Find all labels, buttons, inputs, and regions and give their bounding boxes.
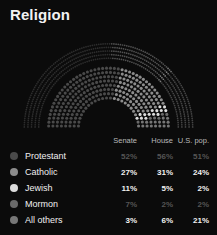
chart-dot <box>49 89 51 91</box>
chart-dot <box>54 77 56 79</box>
chart-dot <box>139 113 142 116</box>
table-row[interactable]: Catholic27%31%24% <box>10 164 209 180</box>
chart-dot <box>172 72 174 74</box>
chart-dot <box>155 109 158 112</box>
chart-dot <box>165 82 167 84</box>
table-row[interactable]: Protestant52%56%51% <box>10 148 209 164</box>
chart-dot <box>47 93 49 95</box>
chart-dot <box>171 91 173 93</box>
chart-dot <box>66 83 69 86</box>
chart-dot <box>160 81 162 83</box>
table-row[interactable]: Jewish11%5%2% <box>10 180 209 196</box>
table-row[interactable]: Mormon7%2%2% <box>10 196 209 212</box>
chart-dot <box>170 71 172 73</box>
chart-dot <box>166 89 168 91</box>
chart-dot <box>122 44 124 46</box>
legend-dot-icon <box>10 200 18 208</box>
chart-dot <box>177 103 179 105</box>
chart-dot <box>86 70 89 73</box>
chart-dot <box>31 124 33 126</box>
chart-dot <box>185 126 187 128</box>
chart-dot <box>178 81 180 83</box>
chart-dot <box>99 80 102 83</box>
chart-dot <box>104 54 106 56</box>
chart-dot <box>66 113 69 116</box>
chart-dot <box>111 54 113 56</box>
chart-dot <box>139 76 142 79</box>
chart-dot <box>68 109 71 112</box>
chart-dot <box>170 76 172 78</box>
chart-dot <box>27 124 29 126</box>
chart-dot <box>63 56 65 58</box>
chart-dot <box>134 93 137 96</box>
chart-dot <box>119 81 122 84</box>
chart-dot <box>68 66 70 68</box>
chart-dot <box>150 54 152 56</box>
chart-dot <box>175 99 177 101</box>
chart-dot <box>38 103 40 105</box>
chart-dot <box>89 74 92 77</box>
chart-dot <box>97 58 99 60</box>
chart-dot <box>167 68 169 70</box>
chart-dot <box>31 120 33 122</box>
chart-dot <box>133 87 136 90</box>
chart-dot <box>96 44 98 46</box>
chart-dot <box>103 57 105 59</box>
chart-dot <box>48 73 50 75</box>
chart-dot <box>148 113 151 116</box>
chart-dot <box>137 52 139 54</box>
chart-dot <box>67 53 69 55</box>
chart-dot <box>82 97 85 100</box>
chart-dot <box>144 106 147 109</box>
chart-dot <box>40 99 42 101</box>
chart-dot <box>161 77 163 79</box>
chart-dot <box>141 54 143 56</box>
table-head: Senate House U.S. pop. <box>10 136 209 148</box>
chart-dot <box>85 46 87 48</box>
chart-dot <box>50 66 52 68</box>
chart-dot <box>146 65 148 67</box>
chart-dot <box>165 87 167 89</box>
chart-dot <box>177 124 179 126</box>
chart-dot <box>54 98 57 101</box>
chart-dot <box>107 43 109 45</box>
chart-dot <box>72 95 75 98</box>
chart-dot <box>59 98 62 101</box>
chart-dot <box>95 94 98 97</box>
chart-dot <box>113 71 116 74</box>
row-value-house: 56% <box>137 148 173 164</box>
chart-dot <box>33 107 35 109</box>
chart-dot <box>169 95 171 97</box>
chart-dot <box>66 95 69 98</box>
chart-dot <box>142 58 144 60</box>
chart-dot <box>187 115 189 117</box>
chart-dot <box>130 46 132 48</box>
chart-dot <box>136 56 138 58</box>
chart-dot <box>129 61 131 63</box>
chart-dot <box>121 68 124 71</box>
chart-dot <box>75 113 78 116</box>
chart-dot <box>143 113 146 116</box>
table-body: Protestant52%56%51%Catholic27%31%24%Jewi… <box>10 148 209 228</box>
chart-dot <box>184 103 186 105</box>
chart-dot <box>162 84 164 86</box>
chart-dot <box>140 117 143 120</box>
chart-dot <box>65 117 68 120</box>
chart-dot <box>97 98 100 101</box>
chart-dot <box>68 61 70 63</box>
chart-dot <box>133 82 136 85</box>
chart-dot <box>160 98 163 101</box>
chart-dot <box>57 102 60 105</box>
chart-dot <box>127 104 130 107</box>
chart-dot <box>100 51 102 53</box>
legend-dot-icon <box>10 184 18 192</box>
chart-dot <box>96 51 98 53</box>
chart-dot <box>93 48 95 50</box>
chart-dot <box>36 99 38 101</box>
chart-dot <box>45 97 47 99</box>
chart-dot <box>128 70 131 73</box>
table-row[interactable]: All others3%6%21% <box>10 212 209 228</box>
chart-dot <box>53 84 55 86</box>
chart-dot <box>137 84 140 87</box>
chart-dot <box>72 83 75 86</box>
